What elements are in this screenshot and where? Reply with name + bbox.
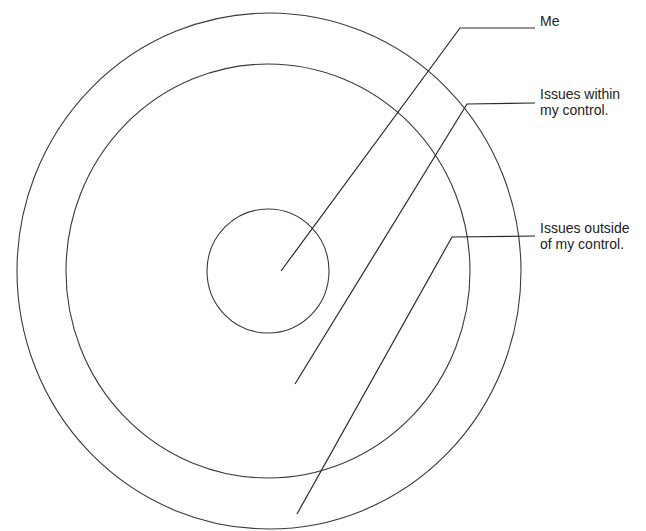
label-issues-within-control: Issues within my control. (540, 86, 620, 118)
inner-circle (207, 209, 329, 333)
label-me: Me (540, 13, 559, 29)
label-issues-outside-control: Issues outside of my control. (540, 220, 630, 252)
leader-line-me (281, 28, 535, 271)
leader-line-within (295, 103, 535, 384)
concentric-circles-diagram (0, 0, 646, 531)
middle-circle (66, 64, 470, 478)
outer-circle (17, 13, 521, 529)
